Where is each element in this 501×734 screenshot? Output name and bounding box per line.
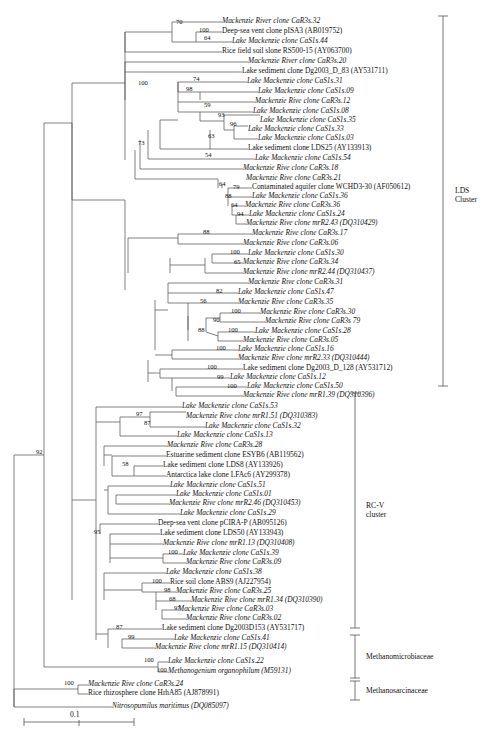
taxon-label: Mackenzie Rive clone CaR3s.24 [88, 680, 183, 688]
taxon-label: Mackenzie Rive clone CaR3s.36 [245, 201, 340, 209]
bootstrap-value: 70 [176, 18, 183, 25]
taxon-label: Mackenzie River clone CaR3s.32 [222, 17, 320, 25]
bootstrap-value: 100 [228, 326, 238, 333]
taxon-label: Deep-sea vent clone pISA3 (AB019752) [222, 27, 342, 35]
bootstrap-value: 100 [144, 656, 154, 663]
cluster-label-rcv-line2: cluster [366, 510, 386, 519]
taxon-label: Lake sediment clone Dg2003D153 (AY531717… [162, 624, 304, 632]
bootstrap-value: 64 [231, 201, 238, 208]
bootstrap-value: 99 [217, 373, 224, 380]
taxon-label: Mackenzie Rive clone CaR3s.28 [167, 441, 262, 449]
cluster-label-rcv: RC-V cluster [366, 501, 386, 519]
bootstrap-value: 87 [144, 419, 151, 426]
bootstrap-value: 82 [216, 287, 223, 294]
taxon-label: Lake Mackenzie clone CaS1s.32 [205, 422, 301, 430]
bootstrap-value: 100 [230, 248, 240, 255]
taxon-label: Rice rhizosphere clone HrhA85 (AJ878991) [88, 689, 219, 697]
taxon-label: Lake sediment clone Dg2003_D_83 (AY53171… [242, 67, 388, 75]
bootstrap-value: 94 [237, 210, 244, 217]
bootstrap-value: 100 [138, 79, 148, 86]
taxon-label: Mackenzie Rive clone mrR2.44 (DQ310437) [243, 268, 375, 276]
taxon-label: Methanogenium organophilum (M59131) [168, 667, 291, 675]
bootstrap-value: 64 [204, 34, 211, 41]
taxon-label: Contaminated aquifer clone WCHD3-30 (AF0… [252, 183, 410, 191]
bootstrap-value: 63 [208, 132, 215, 139]
taxon-label: Lake sediment clone LDS50 (AY133943) [160, 529, 283, 537]
bootstrap-value: 99 [128, 633, 135, 640]
taxon-label: Mackenzie Rive clone CaR3s.30 [260, 308, 355, 316]
taxon-label: Rice field soil slone RS500-15 (AY063700… [222, 47, 352, 55]
taxon-label: Mackenzie Rive clone CaR3s.18 [243, 164, 338, 172]
taxon-label: Lake Mackenzie clone CaS1s.30 [248, 249, 344, 257]
taxon-label: Mackenzie Rive clone CaR3s.06 [243, 239, 338, 247]
taxon-label: Mackenzie Rive clone CaR3s.31 [248, 278, 343, 286]
bootstrap-value: 73 [138, 139, 145, 146]
taxon-label: Lake Mackenzie clone CaS1s.38 [166, 568, 262, 576]
taxon-label: Lake Mackenzie clone CaS1s.12 [230, 373, 326, 381]
taxon-label: Lake Mackenzie clone CaS1s.22 [168, 657, 264, 665]
taxon-label: Antarctica lake clone LFAc6 (AY299378) [166, 471, 290, 479]
bootstrap-value: 79 [233, 183, 240, 190]
taxon-label: Mackenzie Rive clone CaR3s 79 [265, 317, 360, 325]
taxon-label: Mackenzie Rive clone CaR3s.21 [246, 174, 341, 182]
bootstrap-value: 97 [136, 410, 143, 417]
bootstrap-value: 93 [218, 111, 225, 118]
taxon-label: Lake Mackenzie clone CaS1s.08 [253, 107, 349, 115]
bootstrap-value: 100 [199, 26, 209, 33]
bootstrap-value: 88 [198, 326, 205, 333]
taxon-label: Lake Mackenzie clone CaS1s.36 [252, 192, 348, 200]
bootstrap-value: 59 [204, 101, 211, 108]
taxon-label: Lake sediment clone LDS25 (AY133913) [248, 144, 371, 152]
taxon-label: Mackenzie Rive clone CaR3s.05 [243, 336, 338, 344]
taxon-label: Nitrosopumilus maritimus (DQ085097) [112, 702, 229, 710]
bootstrap-value: 92 [36, 448, 43, 455]
cluster-label-lds: LDS Cluster [455, 186, 477, 204]
taxon-label: Mackenzie Rive clone CaR3s.12 [255, 97, 350, 105]
bootstrap-value: 100 [64, 679, 74, 686]
taxon-label: Mackenzie Rive clone CaR3s.03 [178, 605, 273, 613]
bootstrap-value: 88 [203, 228, 210, 235]
taxon-label: Lake Mackenzie clone CaS1s.41 [174, 634, 270, 642]
taxon-label: Mackenzie Rive clone mrR1.51 (DQ310383) [186, 412, 318, 420]
cluster-label-methanomicrobiaceae: Methanomicrobiaceae [366, 652, 433, 661]
taxon-label: Lake Mackenzie clone CaS1s.44 [232, 37, 328, 45]
taxon-label: Lake sediment clone Dg2003_D_128 (AY5317… [243, 364, 393, 372]
taxon-label: Mackenzie Rive clone mrR1.13 (DQ310408) [163, 539, 295, 547]
taxon-label: Mackenzie Rive clone CaR3s.17 [252, 229, 347, 237]
bootstrap-value: 90 [213, 316, 220, 323]
taxon-label: Mackenzie Rive clone CaR3s.34 [243, 258, 338, 266]
cluster-label-methanosarcinaceae: Methanosarcinaceae [366, 686, 428, 695]
taxon-label: Lake Mackenzie clone CaS1s.28 [255, 327, 351, 335]
taxon-label: Mackenzie Rive clone mrR1.34 (DQ310390) [191, 596, 323, 604]
cluster-label-lds-line1: LDS [455, 186, 477, 195]
bootstrap-value: 100 [157, 666, 167, 673]
bootstrap-value: 68 [169, 595, 176, 602]
taxon-label: Lake Mackenzie clone CaS1s.31 [247, 77, 343, 85]
taxon-label: Mackenzie Rive clone CaR3s.25 [176, 587, 271, 595]
taxon-label: Mackenzie Rive clone mrR2.46 (DQ310453) [169, 499, 301, 507]
taxon-label: Lake Mackenzie clone CaS1s.13 [177, 431, 273, 439]
taxon-label: Lake Mackenzie clone CaS1s.47 [238, 288, 334, 296]
bootstrap-value: 87 [116, 623, 123, 630]
scale-bar [24, 718, 134, 726]
taxon-label: Lake Mackenzie clone CaS1s.51 [170, 481, 266, 489]
bootstrap-value: 56 [200, 297, 207, 304]
taxon-label: Lake Mackenzie clone CaS1s.33 [248, 125, 344, 133]
taxon-label: Lake Mackenzie clone CaS1s.16 [238, 345, 334, 353]
bootstrap-value: 98 [164, 586, 171, 593]
taxon-label: Mackenzie Rive clone mrR2.43 (DQ310429) [246, 219, 378, 227]
bootstrap-value: 100 [216, 344, 226, 351]
taxon-label: Mackenzie Rive clone CaR3s.09 [186, 558, 281, 566]
bootstrap-value: 98 [186, 85, 193, 92]
bootstrap-value: 58 [122, 460, 129, 467]
taxon-label: Rice soil clone ABS9 (AJ227954) [170, 578, 271, 586]
bootstrap-value: 95 [94, 528, 101, 535]
bootstrap-value: 54 [205, 151, 212, 158]
bootstrap-value: 74 [193, 75, 200, 82]
bootstrap-value: 88 [225, 192, 232, 199]
taxon-label: Lake Mackenzie clone CaS1s.39 [183, 549, 279, 557]
taxon-label: Lake Mackenzie clone CaS1s.29 [180, 509, 276, 517]
taxon-label: Mackenzie Rive clone mrR1.39 (DQ310396) [243, 391, 375, 399]
taxon-label: Lake Mackenzie clone CaS1s.01 [176, 490, 272, 498]
taxon-label: Deep-sea vent clone pCIRA-P (AB095126) [158, 519, 287, 527]
